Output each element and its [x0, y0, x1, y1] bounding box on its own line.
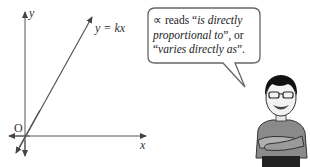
proportional-symbol: ∝: [153, 14, 162, 26]
character-illustration: [250, 70, 310, 167]
bubble-text-segment: reads “: [162, 14, 197, 26]
cartoon-character: [250, 70, 310, 167]
graph-axes: [0, 0, 150, 167]
direct-proportion-graph: y x O y = kx: [0, 0, 150, 167]
bubble-text-italic: varies directly as: [158, 43, 237, 55]
bubble-text-italic: proportional to: [153, 29, 223, 41]
bubble-text-segment: ”, or: [223, 29, 243, 41]
bubble-text-segment: ”.: [237, 43, 245, 55]
y-axis-label: y: [29, 6, 34, 21]
speech-bubble-text: ∝ reads “is directly proportional to”, o…: [153, 13, 263, 57]
line-equation-label: y = kx: [95, 21, 125, 36]
bubble-text-italic: is directly: [197, 14, 242, 26]
x-axis-label: x: [140, 138, 145, 153]
origin-label: O: [14, 121, 23, 136]
